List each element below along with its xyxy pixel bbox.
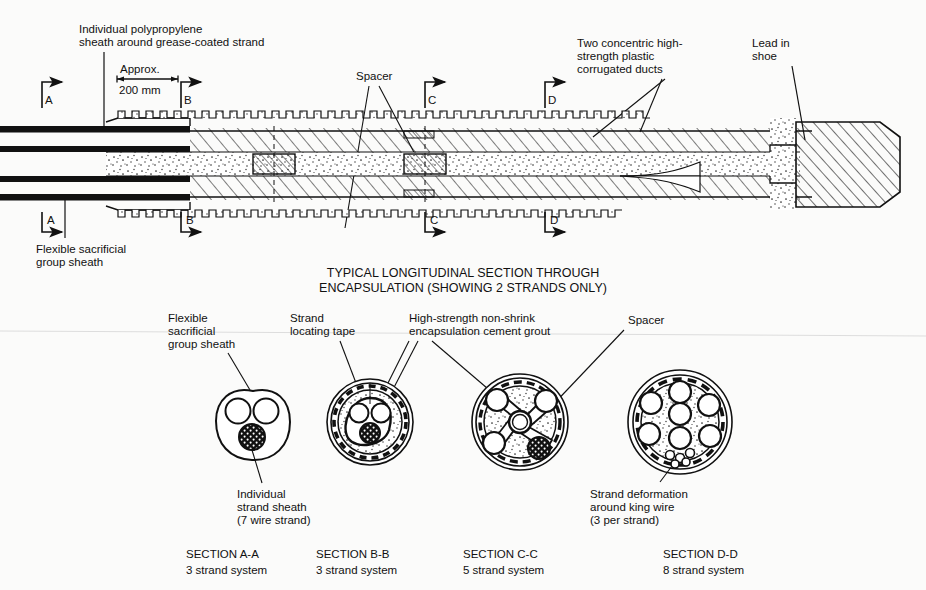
caption-line2: ENCAPSULATION (SHOWING 2 STRANDS ONLY) — [319, 281, 607, 295]
section-c-title: SECTION C-C — [463, 548, 538, 560]
section-mark-b-label-bottom: B — [186, 214, 194, 226]
individual-line1: Individual — [237, 488, 286, 500]
ducts-line3: corrugated ducts — [577, 63, 663, 75]
strand-a-2 — [254, 399, 279, 424]
strand-d-3 — [698, 394, 720, 416]
section-b-subtitle: 3 strand system — [316, 564, 397, 576]
lead-in-shoe — [796, 122, 900, 207]
section-circle-b — [327, 379, 413, 465]
figure-caption: TYPICAL LONGITUDINAL SECTION THROUGH ENC… — [319, 266, 607, 295]
section-mark-a-label-bottom: A — [47, 214, 55, 226]
strand-lower-inner — [0, 176, 190, 182]
longitudinal-section — [0, 111, 900, 217]
section-mark-d-label-top: D — [548, 94, 556, 106]
section-c-subtitle: 5 strand system — [463, 564, 544, 576]
section-mark-c-label-bottom: C — [430, 214, 438, 226]
section-mark-d-bottom: D — [545, 212, 565, 232]
label-corrugated-ducts: Two concentric high- strength plastic co… — [577, 37, 683, 137]
section-mark-b-top: B — [181, 82, 201, 108]
dimension-200mm: Approx. 200 mm — [117, 63, 178, 96]
section-mark-a-top: A — [42, 82, 62, 108]
deformation-line2: around king wire — [590, 501, 674, 513]
shoe-line1: Lead in — [752, 37, 790, 49]
label-flexible-sheath-top: Flexible sacrificial group sheath — [36, 200, 126, 268]
shoe-line2: shoe — [752, 50, 777, 62]
tape-line1: Strand — [290, 312, 324, 324]
section-mark-a-label-top: A — [45, 94, 53, 106]
grout-line2: encapsulation cement grout — [409, 325, 551, 337]
individual-line2: strand sheath — [237, 501, 307, 513]
polypropylene-line1: Individual polypropylene — [79, 23, 202, 35]
label-strand-locating-tape: Strand locating tape — [290, 312, 356, 383]
grout-line1: High-strength non-shrink — [409, 312, 535, 324]
section-title-a: SECTION A-A 3 strand system — [186, 548, 267, 576]
strand-upper-left — [0, 126, 190, 133]
section-title-c: SECTION C-C 5 strand system — [463, 548, 544, 576]
section-mark-b-label-top: B — [184, 94, 192, 106]
individual-line3: (7 wire strand) — [237, 514, 311, 526]
section-title-d: SECTION D-D 8 strand system — [663, 548, 744, 576]
strand-d-1 — [669, 381, 691, 403]
strand-a-3 — [239, 424, 265, 450]
polypropylene-line2: sheath around grease-coated strand — [79, 36, 264, 48]
sheath-top-line1: Flexible sacrificial — [36, 243, 126, 255]
strand-d-7 — [699, 425, 721, 447]
strand-d-6 — [669, 427, 691, 449]
strand-a-1 — [226, 399, 251, 424]
strand-d-4 — [669, 403, 691, 425]
dimension-value: 200 mm — [119, 84, 161, 96]
ducts-line2: strength plastic — [577, 50, 655, 62]
section-b-title: SECTION B-B — [316, 548, 390, 560]
section-circle-a — [216, 390, 290, 483]
caption-line1: TYPICAL LONGITUDINAL SECTION THROUGH — [327, 266, 600, 280]
section-circle-d — [628, 370, 732, 482]
strand-lower-left — [0, 194, 190, 201]
section-circle-c — [472, 374, 568, 470]
section-mark-b-bottom: B — [181, 212, 201, 232]
deformation-line1: Strand deformation — [590, 488, 688, 500]
section-mark-d-top: D — [545, 82, 565, 108]
section-a-title: SECTION A-A — [186, 548, 259, 560]
flexible-line2: sacrificial — [168, 325, 215, 337]
section-mark-a-bottom: A — [42, 212, 62, 232]
strand-d-2 — [640, 392, 662, 414]
flexible-line1: Flexible — [168, 312, 208, 324]
label-individual-strand-sheath: Individual strand sheath (7 wire strand) — [237, 488, 311, 526]
technical-diagram: Individual polypropylene sheath around g… — [0, 0, 926, 590]
section-d-title: SECTION D-D — [663, 548, 738, 560]
tape-line2: locating tape — [290, 325, 355, 337]
label-flexible-sheath-lower: Flexible sacrificial group sheath — [168, 312, 250, 390]
section-mark-c-top: C — [425, 82, 445, 108]
spacer-top-label: Spacer — [356, 70, 393, 82]
flexible-line3: group sheath — [168, 338, 235, 350]
sheath-top-line2: group sheath — [36, 256, 103, 268]
duct-corrugation-top — [118, 111, 650, 118]
strand-d-5 — [638, 423, 660, 445]
label-strand-deformation: Strand deformation around king wire (3 p… — [590, 488, 688, 526]
section-a-subtitle: 3 strand system — [186, 564, 267, 576]
deformation-line3: (3 per strand) — [590, 514, 659, 526]
spacer-lower-label: Spacer — [628, 314, 665, 326]
diagram-canvas: Individual polypropylene sheath around g… — [0, 0, 926, 590]
approx-label: Approx. — [120, 63, 160, 75]
section-mark-c-label-top: C — [428, 94, 436, 106]
strand-upper-inner — [0, 146, 190, 152]
section-title-b: SECTION B-B 3 strand system — [316, 548, 397, 576]
section-mark-d-label-bottom: D — [550, 214, 558, 226]
grout-plug — [770, 118, 796, 210]
ducts-line1: Two concentric high- — [577, 37, 683, 49]
section-d-subtitle: 8 strand system — [663, 564, 744, 576]
